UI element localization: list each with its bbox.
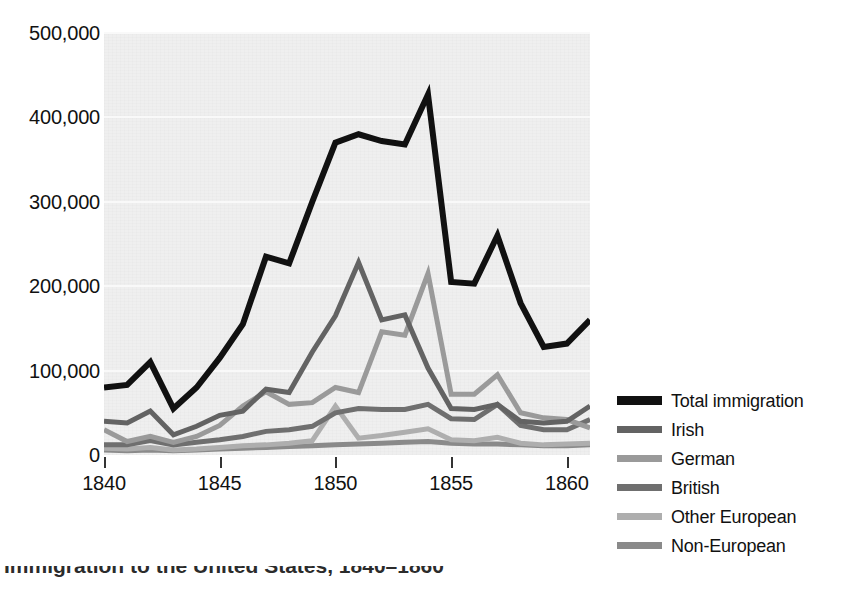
legend-swatch-icon (617, 426, 662, 433)
immigration-line-chart-figure: 0100,000200,000300,000400,000500,000 184… (0, 0, 842, 595)
legend-swatch-icon (617, 455, 662, 462)
legend-item-total-immigration[interactable]: Total immigration (617, 386, 842, 415)
x-tick-label-1845: 1845 (160, 472, 280, 495)
legend-item-non-european[interactable]: Non-European (617, 531, 842, 560)
figure-caption-text: Immigration to the United States, 1840–1… (4, 566, 444, 578)
legend-item-label: German (671, 449, 735, 469)
x-tick-mark-1860 (567, 457, 569, 468)
legend-item-label: Other European (671, 507, 796, 527)
x-tick-mark-1850 (335, 457, 337, 468)
legend: Total immigrationIrishGermanBritishOther… (617, 386, 842, 560)
x-tick-mark-1845 (220, 457, 222, 468)
x-tick-mark-1855 (451, 457, 453, 468)
legend-swatch-icon (617, 484, 662, 491)
legend-swatch-icon (617, 542, 662, 549)
legend-swatch-icon (617, 396, 662, 405)
x-tick-label-1850: 1850 (275, 472, 395, 495)
x-tick-label-1860: 1860 (507, 472, 627, 495)
x-tick-mark-1840 (104, 457, 106, 468)
legend-item-label: Non-European (671, 536, 786, 556)
legend-item-british[interactable]: British (617, 473, 842, 502)
legend-item-label: Total immigration (671, 391, 804, 411)
legend-item-irish[interactable]: Irish (617, 415, 842, 444)
figure-caption: Immigration to the United States, 1840–1… (0, 566, 842, 595)
legend-item-label: Irish (671, 420, 704, 440)
legend-item-label: British (671, 478, 720, 498)
x-tick-label-1840: 1840 (44, 472, 164, 495)
x-tick-label-1855: 1855 (391, 472, 511, 495)
legend-swatch-icon (617, 513, 662, 520)
legend-item-german[interactable]: German (617, 444, 842, 473)
legend-item-other-european[interactable]: Other European (617, 502, 842, 531)
